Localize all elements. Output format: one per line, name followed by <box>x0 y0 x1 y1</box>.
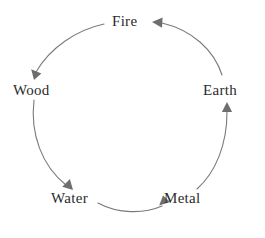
edge-fire-to-wood-line <box>36 24 104 72</box>
cycle-arcs-canvas <box>0 0 265 238</box>
edge-water-to-metal-line <box>98 203 162 212</box>
edge-earth-to-fire <box>152 18 222 75</box>
edge-earth-to-fire-arrowhead <box>152 18 163 28</box>
node-label-fire: Fire <box>112 14 137 29</box>
node-label-metal: Metal <box>164 191 201 206</box>
edge-metal-to-earth-arrowhead <box>222 102 232 112</box>
node-label-earth: Earth <box>203 83 237 98</box>
five-elements-cycle-diagram: Fire Wood Earth Water Metal <box>0 0 265 238</box>
edge-wood-to-water-arrowhead <box>62 179 73 190</box>
edge-earth-to-fire-line <box>162 23 222 75</box>
node-label-water: Water <box>51 191 88 206</box>
node-label-wood: Wood <box>13 83 50 98</box>
edge-metal-to-earth-line <box>197 112 227 189</box>
edge-metal-to-earth <box>197 102 232 189</box>
edge-fire-to-wood <box>31 24 104 80</box>
edge-water-to-metal <box>98 196 170 212</box>
edge-wood-to-water <box>33 100 73 190</box>
edge-wood-to-water-line <box>33 100 66 185</box>
